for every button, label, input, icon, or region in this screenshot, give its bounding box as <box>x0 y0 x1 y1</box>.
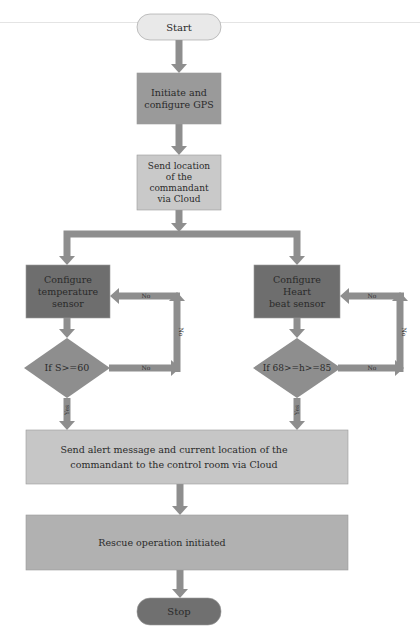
arrow-head-icon <box>171 146 187 155</box>
edge-rescue-to-stop <box>172 570 188 598</box>
label-temp-no-right: No <box>142 364 151 371</box>
send-location-process: Send locationof thecommandantvia Cloud <box>137 155 221 210</box>
edge-start-to-gps <box>171 40 187 73</box>
label-heart-no-right: No <box>368 364 377 371</box>
gps-process: Initiate andconfigure GPS <box>137 73 221 124</box>
stop-terminal: Stop <box>137 598 221 625</box>
rescue-process-label: Rescue operation initiated <box>98 537 225 548</box>
start-terminal-label: Start <box>166 22 192 33</box>
edge-alert-to-rescue <box>172 484 188 515</box>
edge-split-right <box>179 234 305 265</box>
arrow-head-icon <box>110 288 119 304</box>
alert-process-shape <box>26 430 348 484</box>
label-temp-no-up: No <box>178 328 185 337</box>
label-heart-no-up: No <box>401 328 408 337</box>
label-heart-no-back: No <box>368 292 377 299</box>
edge-heart-to-decision <box>289 318 305 338</box>
arrow-head-icon <box>172 589 188 598</box>
arrow-head-icon <box>171 64 187 73</box>
arrow-shaft <box>67 234 179 257</box>
edge-location-to-split <box>171 210 187 232</box>
start-terminal: Start <box>137 14 221 40</box>
heart-decision-label: If 68>=h>=85 <box>263 363 332 373</box>
label-temp-yes: Yes <box>63 405 70 416</box>
arrow-head-icon <box>340 288 349 304</box>
arrow-head-icon <box>289 329 305 338</box>
arrow-head-icon <box>289 256 305 265</box>
stop-terminal-label: Stop <box>167 606 190 617</box>
arrow-head-icon <box>59 421 75 430</box>
edge-split-left <box>59 234 179 265</box>
arrow-head-icon <box>59 329 75 338</box>
rescue-process: Rescue operation initiated <box>26 515 348 570</box>
arrow-shaft <box>179 234 297 257</box>
arrow-head-icon <box>59 256 75 265</box>
gps-process-label: Initiate andconfigure GPS <box>144 87 213 110</box>
edge-gps-to-location <box>171 124 187 155</box>
heart-sensor-process: ConfigureHeartbeat sensor <box>254 265 340 318</box>
temp-decision: If S>=60 <box>24 338 110 398</box>
arrow-head-icon <box>172 506 188 515</box>
label-heart-yes: Yes <box>293 405 300 416</box>
alert-process: Send alert message and current location … <box>26 430 348 484</box>
flowchart: StartInitiate andconfigure GPSSend locat… <box>0 0 420 639</box>
temp-sensor-process: Configuretemperaturesensor <box>26 265 110 318</box>
edge-temp-to-decision <box>59 318 75 338</box>
heart-decision: If 68>=h>=85 <box>253 338 341 398</box>
temp-decision-label: If S>=60 <box>45 362 90 373</box>
label-temp-no-back: No <box>142 292 151 299</box>
arrow-head-icon <box>289 421 305 430</box>
